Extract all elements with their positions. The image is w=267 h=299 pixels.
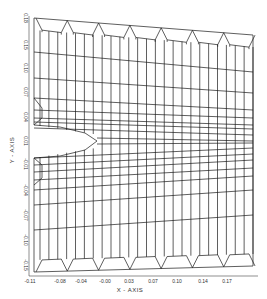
mesh-lines [34,18,255,272]
x-tick-label: 0.14 [198,278,208,284]
y-tick-label: -0.04 [23,184,29,196]
y-tick-label: 0.10 [23,63,29,73]
x-tick-label: -0.00 [99,278,111,284]
y-tick-label: 0.15 [23,40,29,50]
x-tick-label: -0.04 [75,278,87,284]
y-tick-labels: 0.180.150.100.070.040.01-0.01-0.04-0.07-… [23,13,29,271]
y-tick-label: -0.07 [23,209,29,221]
y-tick-label: 0.04 [23,112,29,122]
mesh-edge [97,138,253,141]
mesh-edge [97,143,253,144]
x-tick-label: -0.11 [24,278,35,284]
mesh-edge [130,257,161,270]
mesh-edge [192,255,223,268]
x-tick-label: 0.17 [222,278,232,284]
y-tick-label: -0.01 [23,158,29,170]
mesh-edge [67,258,98,271]
y-axis-title: Y - AXIS [9,137,15,164]
y-tick-label: -0.10 [23,234,29,246]
y-tick-label: -0.15 [23,259,29,271]
mesh-edge [36,259,67,272]
mesh-edge [161,256,192,269]
mesh-edge [224,254,255,267]
mesh-edge [34,98,42,125]
y-tick-label: 0.01 [23,136,29,146]
y-tick-label: 0.07 [23,87,29,97]
x-tick-labels: -0.11-0.08-0.04-0.000.030.070.100.140.17 [24,278,232,284]
x-tick-label: 0.07 [148,278,158,284]
x-tick-label: 0.03 [124,278,134,284]
y-tick-label: 0.18 [23,13,29,23]
x-axis-title: X - AXIS [117,287,144,293]
x-tick-label: -0.08 [54,278,66,284]
mesh-figure: 0.180.150.100.070.040.01-0.01-0.04-0.07-… [0,0,267,299]
x-tick-label: 0.10 [172,278,182,284]
mesh-edge [99,257,130,270]
